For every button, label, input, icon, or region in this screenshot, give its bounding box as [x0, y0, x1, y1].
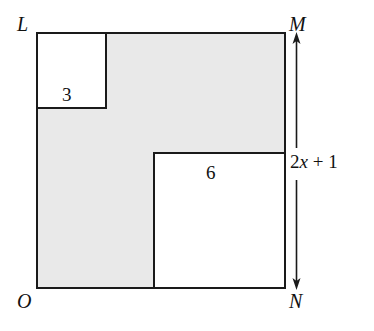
geometry-figure: L M O N 3 6 2x + 1: [0, 0, 374, 331]
arrow-down-icon: [293, 278, 301, 290]
vertex-label-m: M: [289, 14, 306, 34]
dimension-variable: x: [300, 151, 308, 172]
small-square-side-label: 3: [62, 85, 72, 104]
dimension-coefficient: 2: [290, 151, 300, 172]
large-square-side-label: 6: [206, 163, 216, 182]
dimension-constant: 1: [328, 151, 338, 172]
small-cutout-square: [36, 32, 107, 109]
vertex-label-o: O: [17, 291, 31, 311]
vertex-label-l: L: [17, 14, 28, 34]
vertex-label-n: N: [289, 291, 302, 311]
dimension-label-2x-plus-1: 2x + 1: [290, 152, 338, 171]
large-cutout-square: [153, 152, 286, 289]
dimension-operator: +: [313, 151, 324, 172]
